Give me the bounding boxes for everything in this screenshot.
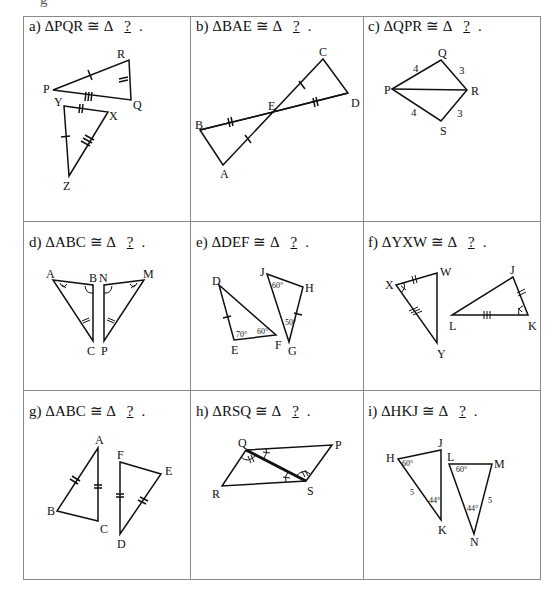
vertex-label: X (385, 278, 394, 292)
vertex-label: B (47, 504, 55, 518)
vertex-label: P (101, 344, 108, 358)
angle-label: 50° (285, 318, 296, 327)
vertex-label: Z (63, 179, 70, 193)
triangle-ecd (273, 59, 348, 112)
angle-label: 60° (402, 459, 413, 468)
vertex-label: E (231, 343, 238, 357)
side-length: 5 (410, 488, 414, 497)
vertex-label: Q (238, 436, 247, 450)
vertex-label: G (288, 344, 297, 358)
vertex-label: K (438, 523, 447, 537)
vertex-label: L (449, 319, 456, 333)
vertex-label: E (165, 464, 172, 478)
figure-a: P Q R Y X Z (43, 47, 142, 193)
figure-i: H J K L M N 60° 44° 60° 44° 5 5 (386, 436, 505, 549)
triangle-bae (200, 112, 273, 165)
vertex-label: N (470, 535, 479, 549)
vertex-label: Y (54, 95, 63, 109)
figure-f: X W Y J L K (385, 263, 537, 361)
side-length: 4 (413, 62, 419, 74)
figure-c: Q P R S 4 3 4 3 (384, 46, 479, 138)
vertex-label: E (268, 99, 275, 113)
vertex-label: Y (437, 347, 446, 361)
vertex-label: D (117, 537, 126, 551)
vertex-label: W (440, 265, 452, 279)
vertex-label: S (440, 124, 447, 138)
vertex-label: D (351, 96, 360, 110)
vertex-label: K (528, 319, 537, 333)
angle-label: 44° (429, 496, 440, 505)
vertex-label: H (386, 451, 395, 465)
vertex-label: J (438, 436, 443, 450)
triangle-nmp (104, 280, 144, 341)
vertex-label: C (100, 522, 108, 536)
figure-h: Q P R S (212, 436, 342, 501)
side-length: 4 (411, 106, 417, 118)
vertex-label: R (212, 487, 220, 501)
vertex-label: A (220, 167, 229, 181)
vertex-label: N (99, 271, 108, 285)
vertex-label: J (260, 265, 265, 279)
vertex-label: C (319, 45, 327, 59)
side-length: 3 (459, 64, 465, 76)
triangle-lmn (449, 464, 492, 534)
vertex-label: A (46, 267, 55, 281)
vertex-label: P (384, 83, 391, 97)
vertex-label: B (89, 271, 97, 285)
angle-label: 44° (467, 504, 478, 513)
angle-label: 60° (257, 327, 268, 336)
figure-b: B A E C D (195, 45, 360, 181)
vertex-label: D (212, 274, 221, 288)
angle-label: 60° (272, 281, 283, 290)
vertex-label: F (117, 448, 124, 462)
vertex-label: P (335, 438, 342, 452)
figure-d: A B N M C P (46, 267, 154, 358)
vertex-label: B (195, 118, 203, 132)
vertex-label: H (305, 281, 314, 295)
vertex-label: F (275, 338, 282, 352)
side-length: 5 (488, 496, 492, 505)
vertex-label: M (494, 457, 505, 471)
vertex-label: S (307, 484, 314, 498)
side-length: 3 (457, 107, 463, 119)
vertex-label: M (143, 267, 154, 281)
vertex-label: Q (438, 46, 447, 60)
vertex-label: A (95, 433, 104, 447)
triangle-yxz (64, 106, 108, 176)
vertex-label: Q (133, 98, 142, 112)
vertex-label: X (109, 109, 118, 123)
geometry-figures: P Q R Y X Z B A E C D Q P R (0, 0, 558, 601)
triangle-abc (53, 280, 93, 341)
vertex-label: R (471, 84, 479, 98)
figure-e: D E F J H G 70° 60° 60° 50° (212, 265, 314, 358)
vertex-label: P (43, 82, 50, 96)
vertex-label: C (87, 344, 95, 358)
figure-g: A B C F E D (47, 433, 172, 551)
vertex-label: J (510, 263, 515, 277)
angle-label: 70° (236, 330, 247, 339)
vertex-label: L (447, 450, 454, 464)
vertex-label: R (117, 47, 125, 61)
angle-label: 60° (456, 465, 467, 474)
triangle-jlk (452, 277, 528, 315)
